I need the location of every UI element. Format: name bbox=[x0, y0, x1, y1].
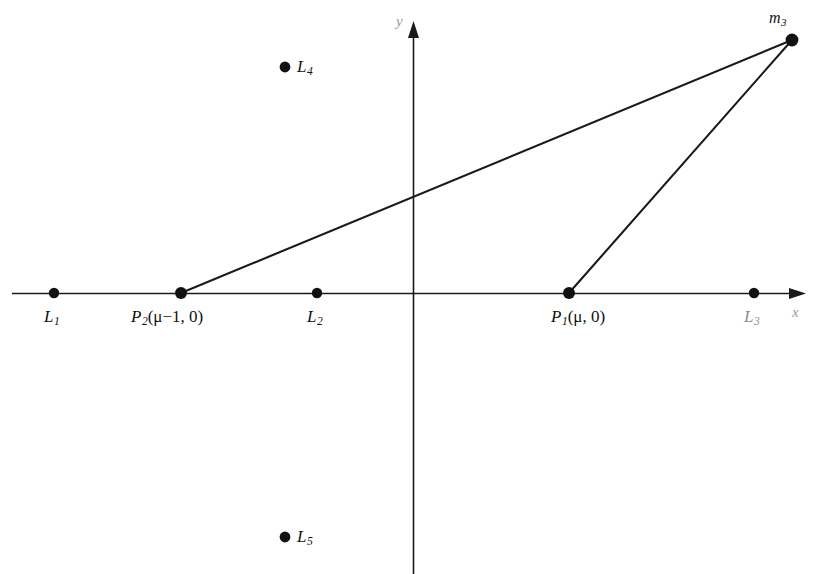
point-label-P1: P1(μ, 0) bbox=[551, 308, 605, 328]
point-label-P2: P2(μ−1, 0) bbox=[131, 308, 203, 328]
segment-P1-m3 bbox=[569, 40, 792, 293]
point-marker-P2 bbox=[175, 287, 187, 299]
point-label-L1: L1 bbox=[44, 308, 60, 328]
point-label-L4: L4 bbox=[297, 58, 313, 78]
point-marker-L5 bbox=[280, 532, 291, 543]
point-marker-L3 bbox=[749, 288, 759, 298]
point-marker-m3 bbox=[786, 34, 799, 47]
point-label-m3: m3 bbox=[769, 10, 787, 28]
point-label-L2: L2 bbox=[307, 308, 323, 328]
point-label-L5: L5 bbox=[297, 528, 313, 548]
x-axis-label: x bbox=[792, 305, 799, 320]
point-marker-L1 bbox=[49, 288, 59, 298]
point-marker-P1 bbox=[563, 287, 575, 299]
point-marker-L4 bbox=[280, 62, 291, 73]
figure-canvas: L1 P2(μ−1, 0) L2 P1(μ, 0) L3 L4 L5 m3 y … bbox=[0, 0, 816, 574]
x-axis bbox=[12, 288, 806, 299]
diagram-svg bbox=[0, 0, 816, 574]
y-axis-label: y bbox=[396, 14, 403, 29]
point-label-L3: L3 bbox=[744, 308, 760, 328]
y-axis-arrowhead bbox=[408, 21, 419, 38]
point-markers bbox=[49, 34, 799, 543]
y-axis bbox=[408, 21, 419, 574]
x-axis-arrowhead bbox=[789, 288, 806, 299]
segment-P2-m3 bbox=[181, 40, 792, 293]
segments bbox=[181, 40, 792, 293]
point-marker-L2 bbox=[312, 288, 322, 298]
